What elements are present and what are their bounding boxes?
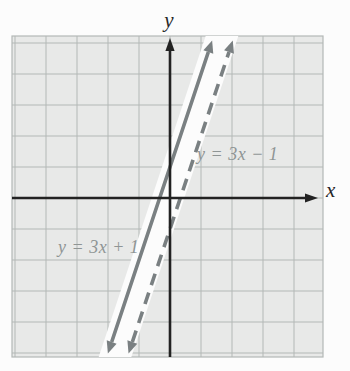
equation-label-solid-line: y = 3x + 1 — [56, 237, 139, 257]
equation-label-dashed-line: y = 3x − 1 — [195, 144, 278, 164]
x-axis-label: x — [325, 178, 336, 202]
y-axis-label: y — [162, 8, 174, 32]
coordinate-plane: y x y = 3x + 1 y = 3x − 1 — [0, 0, 350, 371]
linear-inequality-graph-figure: y x y = 3x + 1 y = 3x − 1 — [0, 0, 350, 371]
